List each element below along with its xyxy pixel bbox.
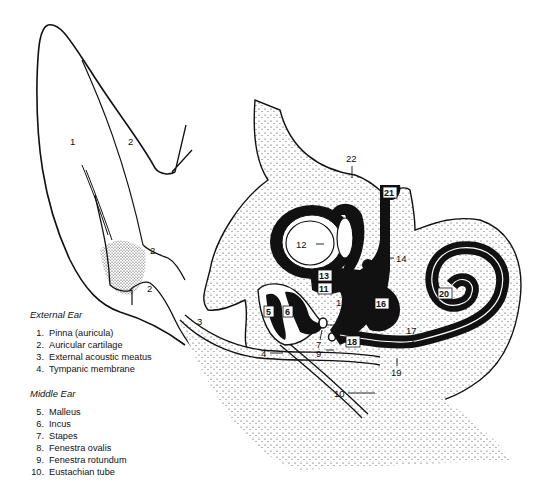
label-18: 18 [346,336,360,347]
label-17: 17 [406,325,417,336]
svg-text:18: 18 [347,337,357,347]
legend-item: 6.Incus [30,418,127,430]
label-2a: 2 [128,136,133,147]
legend-item: 10.Eustachian tube [30,466,127,478]
legend-item: 7.Stapes [30,430,127,442]
legend-list-external: 1.Pinna (auricula) 2.Auricular cartilage… [30,327,152,375]
pinna [37,25,196,352]
label-16: 16 [375,298,389,309]
legend-item: 2.Auricular cartilage [30,339,152,351]
legend-heading-middle: Middle Ear [30,388,127,400]
svg-text:6: 6 [285,307,290,317]
legend-item: 9.Fenestra rotundum [30,454,127,466]
legend-heading-external: External Ear [30,309,152,321]
svg-text:20: 20 [439,289,449,299]
label-10: 10 [334,388,345,399]
legend-list-middle: 5.Malleus 6.Incus 7.Stapes 8.Fenestra ov… [30,406,127,478]
svg-text:16: 16 [376,299,386,309]
legend-external-ear: External Ear 1.Pinna (auricula) 2.Auricu… [30,309,152,375]
legend-item: 1.Pinna (auricula) [30,327,152,339]
label-15: 15 [336,297,347,308]
label-3: 3 [197,316,202,327]
label-12: 12 [296,239,307,250]
label-19: 19 [391,367,402,378]
label-21: 21 [383,187,397,198]
label-13: 13 [318,270,332,281]
svg-text:11: 11 [319,284,329,294]
label-22: 22 [346,153,357,164]
label-8: 8 [340,319,345,330]
label-1: 1 [70,136,75,147]
label-14: 14 [396,253,407,264]
legend-item: 8.Fenestra ovalis [30,442,127,454]
label-11: 11 [318,283,332,294]
label-6: 6 [283,306,293,317]
legend-item: 3.External acoustic meatus [30,351,152,363]
label-2b: 2 [150,245,155,256]
label-2c: 2 [147,283,152,294]
label-20: 20 [438,288,452,299]
legend-middle-ear: Middle Ear 5.Malleus 6.Incus 7.Stapes 8.… [30,388,127,478]
label-9: 9 [316,348,321,359]
label-5: 5 [264,306,274,317]
svg-text:13: 13 [319,271,329,281]
svg-text:21: 21 [384,188,394,198]
legend-item: 4.Tympanic membrane [30,363,152,375]
svg-text:5: 5 [266,307,271,317]
label-4: 4 [261,348,266,359]
legend-item: 5.Malleus [30,406,127,418]
